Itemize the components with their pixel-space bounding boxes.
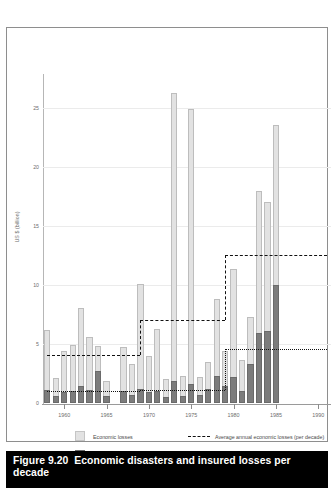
bar (146, 78, 152, 403)
x-tick (276, 404, 277, 409)
x-axis-line (42, 404, 331, 405)
plot-area (43, 78, 331, 403)
reference-line-segment (225, 349, 327, 350)
bar-segment-insured (197, 395, 203, 403)
legend-swatch-economic (75, 431, 85, 441)
chart-panel: US $ (billion) 0510152025 19601965197019… (6, 27, 328, 442)
y-axis-tick-labels: 0510152025 (21, 28, 39, 443)
figure-container: US $ (billion) 0510152025 19601965197019… (0, 0, 334, 494)
y-tick-label: 20 (23, 164, 39, 170)
bar-segment-insured (256, 333, 262, 403)
bar-segment-insured (180, 396, 186, 403)
x-tick-label: 1960 (58, 412, 70, 418)
bar-segment-insured (53, 396, 59, 403)
bar-segment-insured (70, 391, 76, 403)
bar-segment-insured (61, 392, 67, 403)
x-tick (191, 404, 192, 409)
y-tick-label: 5 (23, 341, 39, 347)
bar (171, 78, 177, 403)
bar-segment-insured (120, 391, 126, 403)
legend-label-economic: Economic losses (93, 434, 133, 440)
x-tick-label: 1990 (312, 412, 324, 418)
x-tick (107, 404, 108, 409)
x-tick-label: 1980 (228, 412, 240, 418)
caption-line: Figure 9.20 Economic disasters and insur… (13, 455, 321, 480)
y-tick-label: 25 (23, 105, 39, 111)
bar (154, 78, 160, 403)
bar (239, 78, 245, 403)
reference-line-step (225, 349, 226, 390)
bar-segment-insured (95, 371, 101, 403)
bar (264, 78, 270, 403)
x-tick-label: 1965 (101, 412, 113, 418)
reference-line-segment (47, 355, 140, 356)
y-axis-title: US $ (billion) (14, 187, 20, 267)
reference-line-segment (140, 320, 225, 321)
reference-line-step (140, 320, 141, 354)
bar (197, 78, 203, 403)
bar-segment-insured (230, 377, 236, 403)
bar (180, 78, 186, 403)
x-tick (64, 404, 65, 409)
bar (247, 78, 253, 403)
reference-line-segment (225, 255, 327, 256)
bar-segment-insured (171, 381, 177, 403)
bar (188, 78, 194, 403)
x-tick-label: 1975 (185, 412, 197, 418)
legend-line-avg-economic (188, 436, 210, 437)
bar-segment-insured (273, 285, 279, 403)
bar (230, 78, 236, 403)
bar-segment-insured (163, 397, 169, 403)
x-tick (318, 404, 319, 409)
y-tick-label: 15 (23, 223, 39, 229)
bar-segment-insured (129, 395, 135, 403)
bar-segment-economic (171, 93, 177, 403)
x-tick-label: 1970 (143, 412, 155, 418)
x-tick (234, 404, 235, 409)
bar-segment-insured (247, 364, 253, 403)
bar (163, 78, 169, 403)
figure-caption: Figure 9.20 Economic disasters and insur… (6, 451, 328, 488)
reference-line-step (140, 390, 141, 391)
bar-segment-insured (103, 396, 109, 403)
bar (214, 78, 220, 403)
bar-segment-insured (154, 391, 160, 403)
bar (205, 78, 211, 403)
bar-segment-insured (264, 331, 270, 403)
caption-number: Figure 9.20 (13, 455, 68, 466)
y-tick-label: 10 (23, 282, 39, 288)
bar (273, 78, 279, 403)
bar-segment-insured (188, 384, 194, 403)
bar-segment-economic (188, 109, 194, 403)
x-tick (149, 404, 150, 409)
bar-segment-insured (239, 391, 245, 403)
reference-line-segment (140, 390, 225, 391)
legend-label-avg-economic: Average annual economic losses (per deca… (215, 434, 324, 440)
bar (256, 78, 262, 403)
y-tick-label: 0 (23, 400, 39, 406)
x-tick-label: 1985 (270, 412, 282, 418)
bar-segment-insured (78, 386, 84, 403)
reference-line-step (225, 255, 226, 320)
bar-segment-insured (146, 392, 152, 403)
reference-line-segment (47, 391, 140, 392)
